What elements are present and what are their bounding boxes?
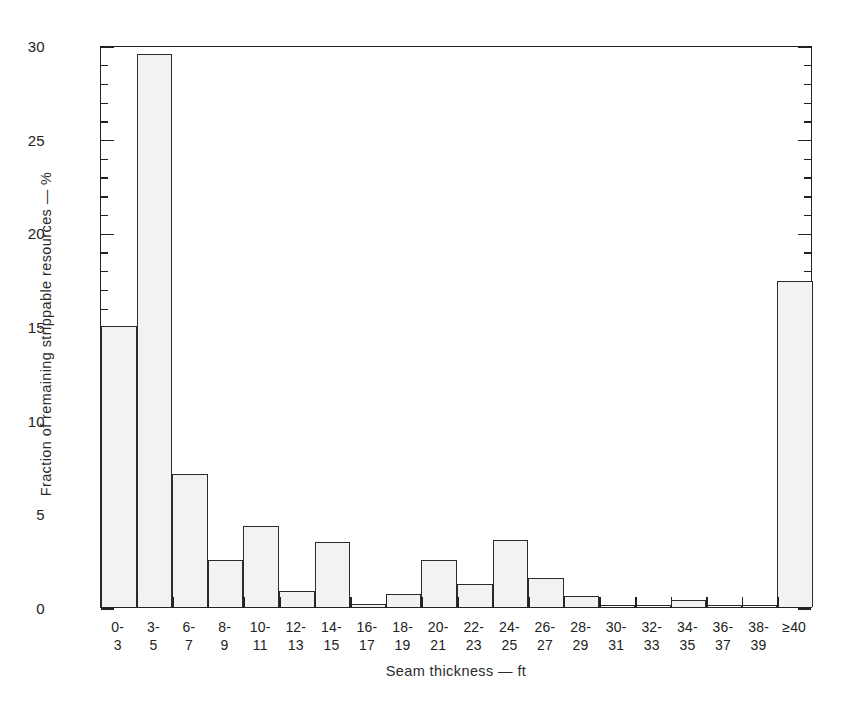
bar [528,578,564,607]
y-tick-minor [804,252,811,253]
x-tick [315,597,317,607]
y-tick-major [798,234,811,235]
x-tick [421,597,423,607]
x-tick [706,597,708,607]
y-tick-minor [804,159,811,160]
bar [742,605,778,607]
bar [350,604,386,607]
x-tick [172,597,174,607]
x-tick [137,597,139,607]
y-tick-label: 25 [0,131,45,148]
x-tick [386,597,388,607]
bar [706,605,742,607]
y-tick-minor [101,103,108,104]
plot-area [100,46,812,608]
bar [671,600,707,607]
bar [243,526,279,607]
y-tick-minor [101,290,108,291]
y-tick-label: 30 [0,38,45,55]
y-tick-minor [804,215,811,216]
x-tick [564,597,566,607]
y-tick-major [101,234,114,235]
y-tick-minor [804,271,811,272]
y-tick-label: 15 [0,319,45,336]
bar [777,281,813,607]
y-tick-minor [101,196,108,197]
x-category-line2: 39 [735,636,783,654]
y-tick-label: 0 [0,600,45,617]
y-tick-major [101,140,114,141]
y-tick-minor [804,177,811,178]
y-tick-minor [101,271,108,272]
y-tick-major [798,46,811,47]
x-axis-title: Seam thickness — ft [100,663,812,679]
bar [137,54,173,607]
bar [315,542,351,607]
x-tick [279,597,281,607]
y-tick-major [101,608,114,609]
y-tick-major [798,140,811,141]
y-tick-minor [101,65,108,66]
bar [635,605,671,607]
bar [493,540,529,607]
bar [564,596,600,607]
y-tick-minor [804,121,811,122]
bar [172,474,208,607]
y-tick-label: 20 [0,225,45,242]
y-tick-minor [804,103,811,104]
y-tick-minor [804,196,811,197]
bar [457,584,493,607]
y-tick-minor [101,84,108,85]
y-tick-label: 5 [0,506,45,523]
y-tick-major [101,46,114,47]
x-category-line1: ≥40 [770,618,818,636]
y-tick-minor [804,65,811,66]
y-tick-major [798,608,811,609]
x-tick [635,597,637,607]
y-tick-minor [101,215,108,216]
x-tick [457,597,459,607]
bar [208,560,244,607]
y-tick-minor [101,252,108,253]
x-tick [208,597,210,607]
x-tick [493,597,495,607]
x-tick [243,597,245,607]
y-tick-minor [101,159,108,160]
x-tick [671,597,673,607]
x-tick [777,597,779,607]
bar [599,605,635,607]
y-tick-minor [101,121,108,122]
y-tick-minor [101,177,108,178]
y-tick-label: 10 [0,412,45,429]
y-tick-minor [101,309,108,310]
x-tick [528,597,530,607]
bar [421,560,457,607]
y-tick-minor [804,84,811,85]
bar [101,326,137,607]
x-category-label: ≥40 [770,618,818,636]
chart-figure: Fraction of remaining strippable resourc… [0,0,865,713]
bar [279,591,315,607]
x-tick [350,597,352,607]
x-tick [599,597,601,607]
x-tick [742,597,744,607]
bar [386,594,422,607]
